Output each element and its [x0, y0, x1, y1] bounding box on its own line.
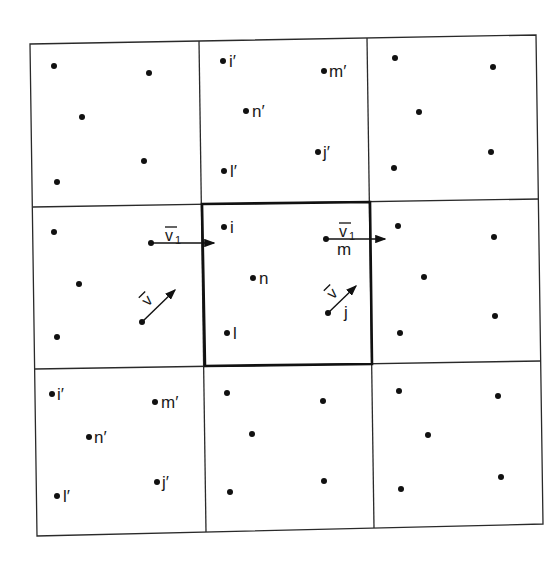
label-m-prime-top: m′ [329, 62, 346, 81]
label-i-prime-bottom: i′ [57, 385, 64, 404]
particle-middle-left-1 [76, 281, 82, 287]
particle-bottom-right-2 [425, 432, 431, 438]
label-n-prime-top: n′ [252, 102, 265, 121]
label-n-prime-bottom: n′ [94, 428, 107, 447]
v1-letter: v [165, 227, 173, 244]
particle-bottom-left-3 [154, 479, 160, 485]
outer-frame [30, 35, 543, 536]
label-j: j [343, 303, 348, 322]
particle-middle-left-0 [51, 229, 57, 235]
label-j-prime-bottom: j′ [161, 473, 169, 492]
label-i-prime-top: i′ [229, 52, 236, 71]
particle-middle-left-2 [54, 334, 60, 340]
particle-top-left-0 [51, 63, 57, 69]
particle-middle-right-2 [421, 274, 427, 280]
particles [49, 55, 504, 499]
v-letter: v [138, 291, 156, 309]
particle-top-center-1 [321, 68, 327, 74]
particle-center-1 [250, 275, 256, 281]
particle-top-center-2 [243, 108, 249, 114]
label-m: m [337, 240, 351, 259]
particle-bottom-right-4 [398, 486, 404, 492]
particle-center-2 [224, 330, 230, 336]
particle-center-0 [221, 224, 227, 230]
particle-top-right-2 [416, 109, 422, 115]
particle-top-right-4 [391, 165, 397, 171]
label-i: i [230, 218, 234, 237]
particle-top-right-1 [490, 64, 496, 70]
vector-label-v-left: v [138, 291, 156, 309]
vector-label-v-center: v [323, 284, 341, 302]
particle-top-right-0 [392, 55, 398, 61]
particle-bottom-right-0 [396, 388, 402, 394]
particle-top-center-0 [220, 58, 226, 64]
particle-middle-right-4 [397, 330, 403, 336]
particle-bottom-center-1 [320, 398, 326, 404]
label-n: n [259, 269, 268, 288]
particle-top-center-3 [315, 149, 321, 155]
label-l-prime-top: l′ [230, 162, 237, 181]
particle-top-right-3 [488, 149, 494, 155]
particle-bottom-center-2 [249, 431, 255, 437]
particle-bottom-right-1 [495, 393, 501, 399]
particle-bottom-center-0 [224, 390, 230, 396]
v1-subscript: 1 [349, 230, 355, 242]
periodic-cells-diagram: i′ m′ n′ j′ l′ i n l m j i′ m′ n′ j′ l′ … [0, 0, 560, 561]
particle-bottom-left-4 [54, 493, 60, 499]
particle-top-left-1 [146, 70, 152, 76]
v1-letter: v [339, 223, 347, 240]
particle-middle-right-0 [395, 223, 401, 229]
particle-bottom-left-2 [86, 434, 92, 440]
particle-bottom-left-0 [49, 391, 55, 397]
particle-top-left-3 [141, 158, 147, 164]
particle-top-center-4 [221, 168, 227, 174]
v-letter: v [323, 284, 341, 302]
particle-bottom-center-4 [227, 489, 233, 495]
particle-middle-right-3 [492, 313, 498, 319]
v1-subscript: 1 [175, 234, 181, 246]
particle-middle-right-1 [491, 234, 497, 240]
particle-bottom-right-3 [498, 474, 504, 480]
particle-top-left-4 [54, 179, 60, 185]
particle-bottom-left-1 [152, 399, 158, 405]
label-j-prime-top: j′ [322, 143, 330, 162]
label-l: l [233, 324, 237, 343]
label-l-prime-bottom: l′ [63, 487, 70, 506]
particle-top-left-2 [79, 114, 85, 120]
particle-bottom-center-3 [321, 478, 327, 484]
label-m-prime-bottom: m′ [161, 393, 178, 412]
